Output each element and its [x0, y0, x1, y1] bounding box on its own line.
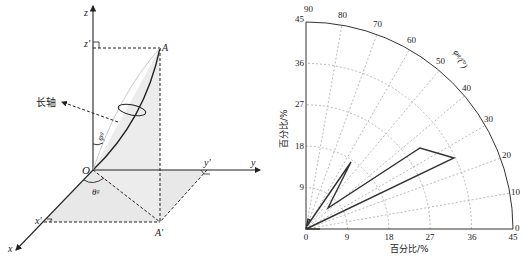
z-axis-label: z: [83, 7, 88, 18]
x-axis-title: 百分比/%: [390, 243, 429, 254]
angle-tick: 50: [436, 56, 446, 66]
y-axis-title: 百分比/%: [278, 109, 289, 148]
y-prime-label: y': [203, 157, 211, 168]
distribution-polygon: [306, 148, 454, 229]
right-angle-mark: [93, 42, 99, 48]
y-tick: 36: [295, 58, 305, 68]
phi-angle-arc: [93, 143, 103, 145]
angular-axis-label: φᵍ/(°): [451, 48, 469, 70]
y-axis-label: y: [250, 157, 256, 168]
y-tick: 27: [295, 99, 305, 109]
x-tick: 9: [345, 232, 350, 242]
angle-tick: 60: [407, 35, 417, 45]
z-prime-label: z': [83, 38, 91, 49]
x-tick: 18: [385, 232, 395, 242]
angle-tick: 0: [515, 223, 520, 233]
phi-label: φᵍ: [95, 131, 107, 142]
x-tick: 27: [426, 232, 436, 242]
origin-label: O: [82, 164, 90, 176]
x-tick: 0: [304, 232, 309, 242]
long-axis-label: 长轴: [36, 96, 56, 108]
long-axis-arrow: [62, 102, 118, 122]
outer-arc: [306, 22, 513, 229]
coordinate-diagram: z y x O A A' z' y' x' φᵍ θᵍ 长轴: [7, 6, 260, 254]
angle-tick: 40: [462, 83, 472, 93]
y-tick: 45: [295, 14, 305, 24]
x-tick: 45: [509, 232, 519, 242]
angle-tick: 30: [484, 114, 494, 124]
angle-tick: 10: [511, 187, 521, 197]
angle-tick: 70: [373, 19, 383, 29]
polar-chart: 0 9 18 27 36 45 9 18 27 36 45 0 10 20 30…: [278, 4, 521, 254]
angle-tick: 90: [304, 4, 314, 14]
x-prime-label: x': [34, 215, 42, 226]
x-axis-label: x: [7, 243, 13, 254]
y-tick: 18: [295, 141, 305, 151]
angle-tick: 20: [502, 150, 512, 160]
theta-label: θᵍ: [92, 187, 99, 197]
point-A-prime-label: A': [154, 227, 164, 238]
y-tick: 9: [300, 182, 305, 192]
figure-canvas: z y x O A A' z' y' x' φᵍ θᵍ 长轴: [0, 0, 527, 265]
point-A-label: A: [161, 42, 169, 53]
angle-tick: 80: [338, 10, 348, 20]
x-tick: 36: [468, 232, 478, 242]
